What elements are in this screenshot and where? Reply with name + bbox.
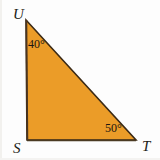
vertex-label-u: U	[13, 7, 24, 22]
angle-measure-at-u: 40°	[28, 38, 45, 50]
vertex-label-t: T	[142, 139, 150, 154]
vertex-label-s: S	[13, 141, 21, 156]
triangle-shape	[0, 0, 160, 160]
angle-measure-at-t: 50°	[105, 122, 122, 134]
geometry-figure: U S T 40° 50°	[0, 0, 160, 160]
